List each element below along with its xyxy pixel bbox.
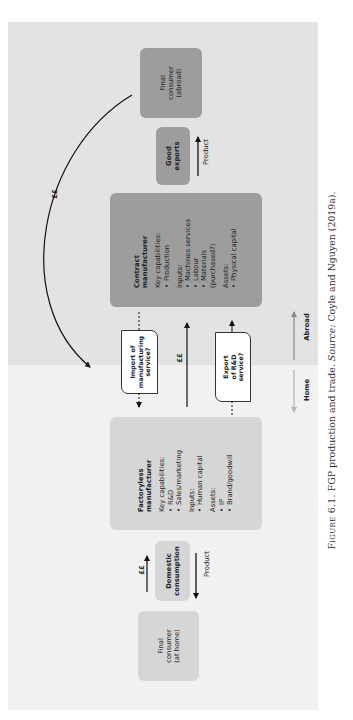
arrows-layer: [0, 0, 353, 720]
source-text: Coyle and Nguyen (2019a).: [326, 191, 337, 321]
figure-label: Figure 6.1.: [326, 494, 337, 549]
source-label: Source:: [326, 324, 337, 361]
payment-arc-arrow: [44, 95, 132, 367]
figure-title: FGP production and trade.: [326, 364, 337, 491]
figure-caption: Figure 6.1. FGP production and trade. So…: [326, 30, 337, 710]
